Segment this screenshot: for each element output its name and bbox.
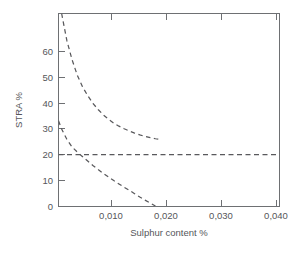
y-tick-label-30: 30 [42,123,53,134]
y-tick-label-60: 60 [42,46,53,57]
x-tick-label-020: 0,020 [154,210,178,221]
y-tick-label-50: 50 [42,72,53,83]
y-tick-label-10: 10 [42,175,53,186]
y-tick-label-40: 40 [42,98,53,109]
chart-figure: 0 10 20 30 40 50 60 0,010 0,020 0,030 0,… [0,0,295,254]
x-tick-label-040: 0,040 [264,210,288,221]
chart-plot: 0 10 20 30 40 50 60 0,010 0,020 0,030 0,… [0,0,295,254]
x-tick-label-010: 0,010 [99,210,123,221]
x-axis-title: Sulphur content % [130,227,208,238]
y-axis-title: STRA % [13,92,24,128]
y-tick-label-20: 20 [42,149,53,160]
x-tick-label-030: 0,030 [209,210,233,221]
y-tick-label-0: 0 [48,201,53,212]
